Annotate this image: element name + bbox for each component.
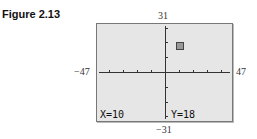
ymax-label: 31 xyxy=(158,10,168,21)
xmin-label: −47 xyxy=(74,66,90,77)
x-tick xyxy=(221,70,222,72)
x-tick xyxy=(109,70,110,72)
calculator-screen: X=10 Y=18 xyxy=(96,23,233,122)
y-tick xyxy=(166,116,168,117)
x-tick xyxy=(123,70,124,72)
y-tick xyxy=(166,87,168,88)
x-tick xyxy=(193,70,194,72)
x-readout: X=10 xyxy=(100,109,124,120)
cursor-marker-icon xyxy=(176,42,184,50)
xmax-label: 47 xyxy=(236,66,246,77)
y-tick xyxy=(166,102,168,103)
figure-label: Figure 2.13 xyxy=(2,8,60,20)
x-tick xyxy=(207,70,208,72)
y-axis xyxy=(165,26,166,119)
y-readout: Y=18 xyxy=(171,109,195,120)
y-tick xyxy=(166,42,168,43)
y-tick xyxy=(166,28,168,29)
x-tick xyxy=(151,70,152,72)
ymin-label: −31 xyxy=(156,124,172,135)
x-tick xyxy=(179,70,180,72)
x-tick xyxy=(137,70,138,72)
y-tick xyxy=(166,57,168,58)
